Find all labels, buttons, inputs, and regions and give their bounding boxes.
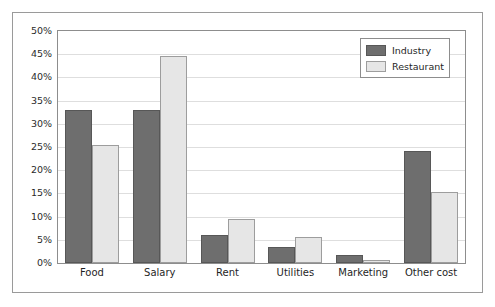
y-axis-tick-label: 45% bbox=[8, 49, 52, 59]
chart-figure: 0%5%10%15%20%25%30%35%40%45%50% FoodSala… bbox=[0, 0, 495, 307]
y-axis-tick-label: 5% bbox=[8, 235, 52, 245]
legend-label-restaurant: Restaurant bbox=[392, 62, 444, 72]
bar-restaurant-utilities bbox=[295, 237, 322, 263]
y-axis-tick-label: 15% bbox=[8, 189, 52, 199]
y-axis-tick-label: 30% bbox=[8, 119, 52, 129]
legend-item-restaurant: Restaurant bbox=[366, 59, 444, 74]
y-axis-tick-label: 50% bbox=[8, 26, 52, 36]
y-axis-tick-label: 20% bbox=[8, 165, 52, 175]
x-axis-tick-label: Utilities bbox=[277, 267, 315, 278]
legend-item-industry: Industry bbox=[366, 43, 444, 58]
bar-industry-other-cost bbox=[404, 151, 431, 263]
legend-swatch-industry bbox=[366, 45, 386, 56]
y-axis-tick-label: 25% bbox=[8, 142, 52, 152]
chart-legend: Industry Restaurant bbox=[360, 38, 450, 78]
y-axis-tick-label: 10% bbox=[8, 212, 52, 222]
bar-restaurant-marketing bbox=[363, 260, 390, 263]
y-axis-tick-labels: 0%5%10%15%20%25%30%35%40%45%50% bbox=[0, 30, 52, 264]
x-axis-tick-label: Food bbox=[80, 267, 104, 278]
legend-label-industry: Industry bbox=[392, 46, 431, 56]
x-axis-tick-label: Marketing bbox=[338, 267, 388, 278]
x-axis-tick-label: Rent bbox=[216, 267, 239, 278]
legend-swatch-restaurant bbox=[366, 61, 386, 72]
bar-industry-rent bbox=[201, 235, 228, 263]
bar-industry-utilities bbox=[268, 247, 295, 263]
y-axis-tick-label: 0% bbox=[8, 258, 52, 268]
bar-restaurant-other-cost bbox=[431, 192, 458, 263]
x-axis-tick-label: Other cost bbox=[405, 267, 457, 278]
y-axis-tick-label: 40% bbox=[8, 73, 52, 83]
bar-industry-marketing bbox=[336, 255, 363, 263]
bar-restaurant-salary bbox=[160, 56, 187, 263]
y-axis-tick-label: 35% bbox=[8, 96, 52, 106]
bar-industry-salary bbox=[133, 110, 160, 263]
bar-industry-food bbox=[65, 110, 92, 263]
bar-restaurant-rent bbox=[228, 219, 255, 263]
x-axis-tick-label: Salary bbox=[144, 267, 175, 278]
x-axis-tick-labels: FoodSalaryRentUtilitiesMarketingOther co… bbox=[58, 267, 465, 287]
bar-restaurant-food bbox=[92, 145, 119, 263]
